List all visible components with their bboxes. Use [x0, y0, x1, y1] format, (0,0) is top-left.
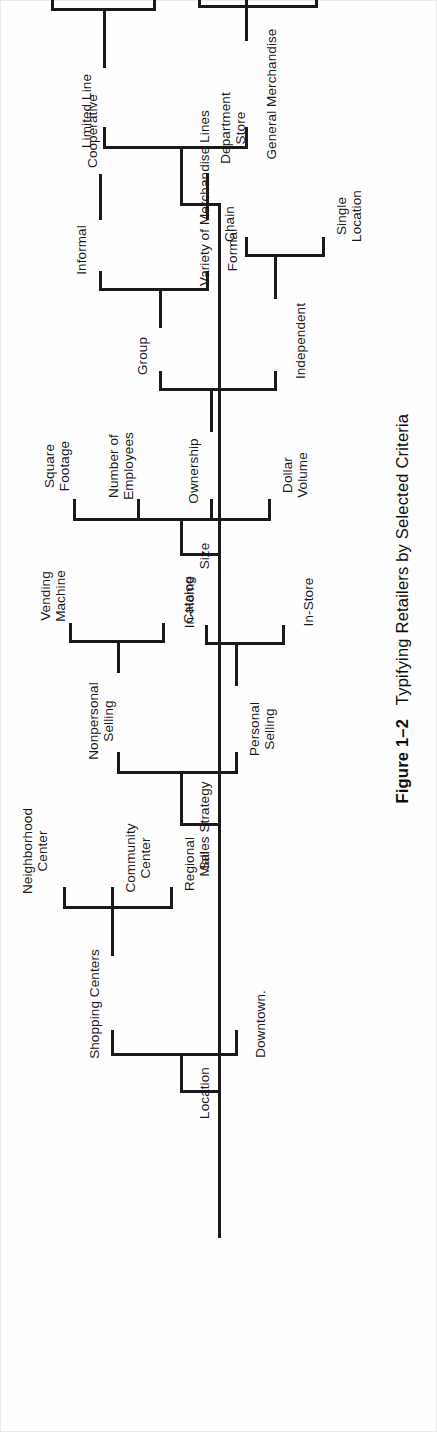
independent-bracket [245, 254, 325, 257]
node-size: Size [197, 543, 212, 570]
sales-branch-personal [235, 752, 238, 774]
shopping-branch-regional [170, 887, 173, 909]
diagram-canvas: Location Downtown. Shopping Centers Regi… [1, 1, 437, 1432]
size-branch-footage [73, 499, 76, 521]
limited-branch-single-line [153, 0, 156, 11]
node-ownership: Ownership [186, 438, 201, 503]
size-bracket [73, 518, 271, 521]
node-department-store: Department Store [217, 92, 247, 164]
location-branch-downtown [235, 1030, 238, 1056]
size-to-children [180, 518, 183, 556]
ownership-branch-group [159, 371, 162, 391]
limited-branch-specialty [51, 0, 54, 11]
node-formal: Formal [225, 229, 240, 272]
nonpersonal-branch-catalog [162, 623, 165, 643]
group-to-children [159, 288, 162, 328]
node-community-center: Community Center [122, 823, 152, 892]
independent-branch-single [322, 237, 325, 257]
general-to-children [245, 5, 248, 41]
trunk-spine [218, 203, 221, 1238]
personal-branch-inhome [205, 625, 208, 645]
variety-branch-limited [103, 127, 106, 149]
variety-bracket [103, 146, 248, 149]
node-independent: Independent [293, 303, 308, 379]
node-dollar-volume: Dollar Volume [279, 452, 309, 498]
shopping-branch-community [111, 887, 114, 909]
personal-bracket [205, 642, 285, 645]
sales-bracket [117, 771, 237, 774]
independent-to-children [274, 254, 277, 299]
ownership-branch-independent [274, 371, 277, 391]
figure-page: Location Downtown. Shopping Centers Regi… [0, 0, 437, 1432]
variety-to-children [180, 146, 183, 206]
location-branch-shopping [111, 1030, 114, 1056]
node-square-footage: Square Footage [41, 441, 71, 491]
group-bracket [99, 288, 209, 291]
retail-classification-tree: Location Downtown. Shopping Centers Regi… [55, 26, 385, 1256]
limited-bracket [51, 8, 156, 11]
node-location: Location [197, 1067, 212, 1119]
nonpersonal-to-children [117, 640, 120, 673]
sales-to-children [180, 771, 183, 826]
node-nonpersonal-selling: Nonpersonal Selling [85, 682, 115, 760]
node-limited-line: Limited Line [79, 74, 94, 148]
node-general-merchandise: General Merchandise [264, 29, 279, 160]
size-branch-ownership [210, 499, 213, 521]
general-branch-discount [198, 0, 201, 8]
node-downtown: Downtown. [253, 990, 268, 1058]
nonpersonal-bracket [69, 640, 165, 643]
personal-to-children [235, 642, 238, 686]
general-branch-chain [245, 0, 248, 8]
node-personal-selling: Personal Selling [246, 702, 276, 756]
node-shopping-centers: Shopping Centers [87, 949, 102, 1059]
node-variety-of-merchandise-lines: Variety of Merchandise Lines [197, 110, 212, 286]
ownership-to-children [210, 388, 213, 432]
shopping-bracket [63, 906, 173, 909]
node-group: Group [135, 337, 150, 375]
sales-branch-nonpersonal [117, 752, 120, 774]
node-in-store: In-Store [301, 578, 316, 627]
shopping-to-children [111, 906, 114, 956]
node-vending-machine: Vending Machine [37, 570, 67, 622]
nonpersonal-branch-vending [69, 623, 72, 643]
shopping-branch-neighborhood [63, 887, 66, 909]
size-branch-dollar [268, 499, 271, 521]
node-single-location: Single Location [333, 190, 363, 242]
personal-branch-instore [282, 625, 285, 645]
node-informal: Informal [74, 225, 89, 275]
informal-to-cooperative [99, 174, 102, 220]
location-to-children [180, 1053, 183, 1093]
general-bracket [198, 5, 318, 8]
group-branch-informal [99, 271, 102, 291]
size-branch-employees [137, 499, 140, 521]
node-catalog: Catalog [181, 576, 196, 623]
variety-branch-general [245, 127, 248, 149]
ownership-bracket [159, 388, 277, 391]
general-branch-department [315, 0, 318, 8]
node-sales-strategy: Sales Strategy [197, 781, 212, 870]
node-neighborhood-center: Neighborhood Center [19, 808, 49, 894]
independent-branch-chain [245, 237, 248, 257]
location-bracket [111, 1053, 237, 1056]
node-number-of-employees: Number of Employees [105, 432, 135, 500]
limited-to-children [103, 8, 106, 68]
